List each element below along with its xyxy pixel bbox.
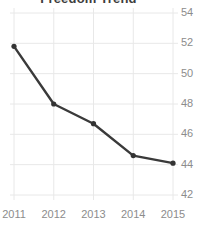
x-axis-tick-label: 2013 <box>74 208 114 220</box>
y-axis-tick-label: 46 <box>181 127 203 139</box>
x-axis-tick-label: 2015 <box>153 208 193 220</box>
data-point-marker <box>170 161 175 166</box>
y-axis-tick-label: 50 <box>181 67 203 79</box>
data-point-marker <box>91 121 96 126</box>
y-axis-tick-label: 42 <box>181 188 203 200</box>
y-axis-tick-label: 48 <box>181 97 203 109</box>
x-axis-tick-label: 2011 <box>0 208 34 220</box>
y-axis-tick-label: 52 <box>181 36 203 48</box>
x-axis-tick-label: 2012 <box>34 208 74 220</box>
data-point-marker <box>131 153 136 158</box>
line-chart-plot <box>0 0 203 229</box>
chart-container: Freedom Trend 54525048464442 20112012201… <box>0 0 203 229</box>
data-point-marker <box>51 101 56 106</box>
y-axis-tick-label: 54 <box>181 6 203 18</box>
y-axis-tick-label: 44 <box>181 158 203 170</box>
x-axis-tick-label: 2014 <box>113 208 153 220</box>
data-point-marker <box>11 44 16 49</box>
